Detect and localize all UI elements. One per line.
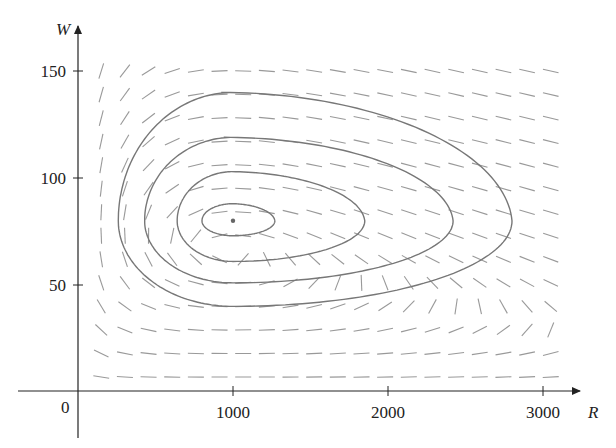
orbit-curve: [177, 172, 365, 262]
orbit-curve: [118, 92, 512, 306]
x-tick-label: 1000: [216, 403, 250, 422]
y-tick-label: 100: [41, 169, 67, 188]
y-tick-label: 50: [49, 276, 66, 295]
x-tick-label: 2000: [371, 403, 405, 422]
orbit-curve: [145, 137, 453, 283]
equilibrium-point: [231, 219, 235, 223]
axis-ticks: 10002000300050100150: [41, 62, 561, 422]
origin-label: 0: [61, 398, 70, 417]
phase-portrait-chart: 10002000300050100150 R W 0: [0, 0, 616, 448]
orbit-curves: [118, 92, 512, 306]
x-axis-label: R: [587, 403, 599, 422]
direction-field: [93, 63, 558, 378]
x-tick-label: 3000: [526, 403, 560, 422]
orbit-curve: [202, 204, 275, 236]
y-tick-label: 150: [41, 62, 67, 81]
y-axis-label: W: [56, 20, 72, 39]
